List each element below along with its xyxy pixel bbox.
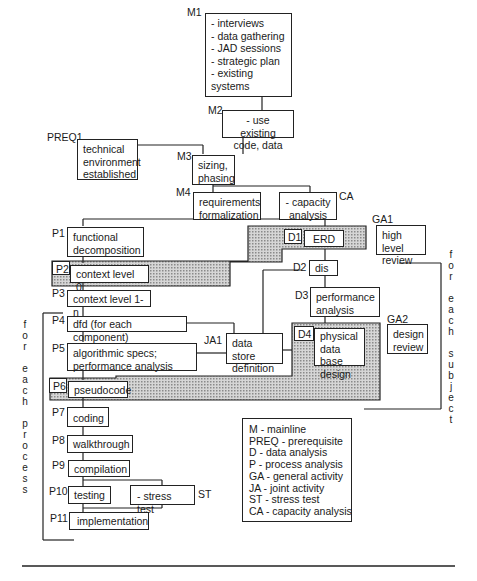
box-p9-compilation: compilation [68, 460, 130, 477]
box-d2-dis: dis [309, 260, 338, 276]
label-ca: CA [339, 190, 354, 202]
label-ja1: JA1 [204, 334, 222, 346]
box-p5-algorithmic-specs: algorithmic specs; performance analysis [67, 343, 197, 371]
label-p9: P9 [52, 459, 65, 471]
box-d4-physical-db-design: physical data base design [314, 328, 365, 366]
box-p8-walkthrough: walkthrough [67, 435, 133, 453]
label-d2: D2 [293, 261, 306, 273]
label-p2: P2 [52, 261, 70, 275]
box-ca-capacity: - capacity analysis [279, 192, 337, 220]
label-m1: M1 [187, 6, 202, 18]
label-p7: P7 [52, 406, 65, 418]
box-ga1-high-level-review: high level review [376, 225, 426, 255]
box-p1-functional-decomposition: functional decomposition [67, 227, 144, 257]
box-m4-requirements: requirements formalization [193, 192, 261, 220]
legend-box: M - mainline PREQ - prerequisite D - dat… [242, 418, 352, 522]
box-p4-dfd: dfd (for each component) [67, 316, 187, 332]
for-each-subject-label: f o r e a c h s u b j e c t [446, 249, 456, 425]
label-p8: P8 [52, 434, 65, 446]
box-m3-sizing: sizing, phasing [192, 155, 235, 185]
label-p6: P6 [49, 378, 67, 393]
label-m4: M4 [176, 186, 191, 198]
label-m3: M3 [177, 150, 192, 162]
for-each-process-label: f o r e a c h p r o c e s s [20, 319, 30, 495]
label-d3: D3 [295, 289, 308, 301]
legend-item-ga: GA - general activity [249, 471, 345, 483]
legend-item-m: M - mainline [249, 424, 345, 436]
box-p7-coding: coding [67, 407, 109, 427]
box-p2-context-level-0: context level 0 [70, 265, 149, 283]
legend-item-ca: CA - capacity analysis [249, 506, 345, 518]
box-p10-testing: testing [68, 486, 111, 504]
label-p4: P4 [52, 314, 65, 326]
label-p10: P10 [49, 485, 68, 497]
label-d4: D4 [294, 326, 314, 341]
box-st-stress-test: - stress test [130, 485, 195, 505]
box-m1-inputs: - interviews - data gathering - JAD sess… [205, 13, 292, 97]
label-p1: P1 [52, 227, 65, 239]
label-d1: D1 [284, 229, 302, 244]
methodology-diagram: M1 - interviews - data gathering - JAD s… [0, 0, 477, 581]
label-st: ST [198, 488, 211, 500]
label-m2: M2 [208, 104, 223, 116]
box-m2-existing-code: - use existing code, data [222, 110, 294, 138]
box-ga2-design-review: design review [387, 324, 428, 354]
label-p3: P3 [52, 287, 65, 299]
box-p3-context-level-1n: context level 1-n [67, 290, 151, 307]
box-p11-implementation: implementation [69, 512, 149, 530]
box-ja1-data-store: data store definition [226, 333, 283, 364]
label-p11: P11 [50, 512, 68, 524]
box-d1-erd: ERD [304, 230, 344, 247]
label-p5: P5 [52, 342, 65, 354]
box-d3-performance-analysis: performance analysis [310, 287, 380, 317]
box-p6-pseudocode: pseudocode [68, 381, 128, 398]
label-ga1: GA1 [372, 213, 393, 225]
box-preq1-tech-env: technical environment established [77, 139, 138, 180]
